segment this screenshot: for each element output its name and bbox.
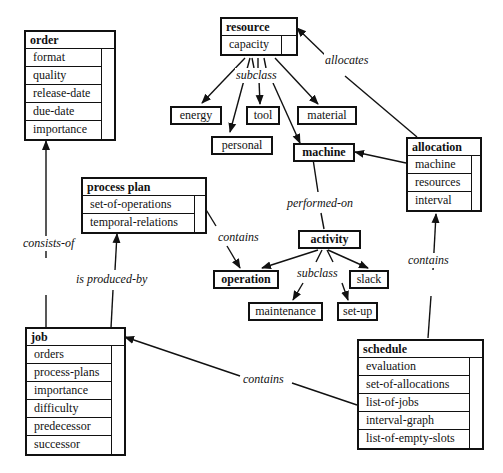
- label-activity-subclass: subclass: [296, 266, 339, 281]
- edge-job-processplan: [115, 234, 117, 270]
- label-allocates: allocates: [324, 53, 369, 68]
- edge-activity-maintenance: [293, 283, 303, 300]
- label-performed-on: performed-on: [286, 196, 354, 211]
- node-tool[interactable]: tool: [246, 106, 280, 125]
- node-activity[interactable]: activity: [298, 230, 361, 249]
- attribute: evaluation: [359, 358, 469, 376]
- class-allocation[interactable]: allocation machine resources interval: [406, 137, 482, 212]
- attribute: interval: [408, 192, 471, 210]
- attribute: importance: [27, 382, 111, 400]
- label-consists-of: consists-of: [22, 236, 75, 251]
- edge-activity-setup: [342, 283, 348, 300]
- edge-resource-material: [275, 58, 318, 104]
- edge-schedule-job: [125, 337, 240, 376]
- label-schedule-contains-allocations: contains: [407, 253, 450, 268]
- edge-plan-operation: [227, 246, 240, 268]
- edge-allocates: [297, 28, 325, 55]
- node-set-up[interactable]: set-up: [337, 302, 378, 321]
- node-maintenance[interactable]: maintenance: [248, 302, 323, 321]
- attribute: importance: [26, 121, 101, 139]
- label-is-produced-by: is produced-by: [75, 272, 148, 287]
- attribute: temporal-relations: [83, 214, 194, 232]
- attribute: list-of-empty-slots: [359, 430, 469, 448]
- class-schedule[interactable]: schedule evaluation set-of-allocations l…: [357, 339, 484, 450]
- attribute-side-column: [281, 36, 296, 54]
- label-resource-subclass: subclass: [235, 68, 278, 83]
- attribute: process-plans: [27, 364, 111, 382]
- edge-allocation-machine: [355, 152, 406, 163]
- label-schedule-contains-jobs: contains: [242, 372, 285, 387]
- attribute: set-of-allocations: [359, 376, 469, 394]
- attribute: format: [26, 49, 101, 67]
- label-plan-contains: contains: [217, 230, 260, 245]
- class-title: order: [26, 32, 114, 49]
- class-title: process plan: [83, 179, 205, 196]
- node-slack[interactable]: slack: [349, 270, 389, 289]
- node-material[interactable]: material: [297, 106, 357, 125]
- attribute: machine: [408, 156, 471, 174]
- attribute: list-of-jobs: [359, 394, 469, 412]
- attribute: resources: [408, 174, 471, 192]
- attribute-side-column: [111, 346, 124, 454]
- attribute: interval-graph: [359, 412, 469, 430]
- class-resource[interactable]: resource capacity: [220, 17, 298, 56]
- attribute: capacity: [222, 36, 281, 54]
- node-energy[interactable]: energy: [170, 106, 222, 125]
- class-job[interactable]: job orders process-plans importance diff…: [25, 327, 126, 456]
- class-process-plan[interactable]: process plan set-of-operations temporal-…: [81, 177, 207, 234]
- attribute: successor: [27, 436, 111, 454]
- class-title: allocation: [408, 139, 480, 156]
- class-order[interactable]: order format quality release-date due-da…: [24, 30, 116, 141]
- attribute-side-column: [194, 196, 205, 232]
- attribute: release-date: [26, 85, 101, 103]
- class-title: resource: [222, 19, 296, 36]
- attribute: orders: [27, 346, 111, 364]
- attribute: difficulty: [27, 400, 111, 418]
- node-machine[interactable]: machine: [293, 143, 355, 162]
- attribute-side-column: [471, 156, 480, 210]
- attribute: due-date: [26, 103, 101, 121]
- attribute-side-column: [101, 49, 114, 139]
- edge-resource-tool: [259, 80, 260, 104]
- attribute: quality: [26, 67, 101, 85]
- node-personal[interactable]: personal: [211, 136, 273, 155]
- node-operation[interactable]: operation: [213, 270, 279, 289]
- class-title: job: [27, 329, 124, 346]
- attribute: predecessor: [27, 418, 111, 436]
- attribute-side-column: [469, 358, 482, 448]
- class-title: schedule: [359, 341, 482, 358]
- attribute: set-of-operations: [83, 196, 194, 214]
